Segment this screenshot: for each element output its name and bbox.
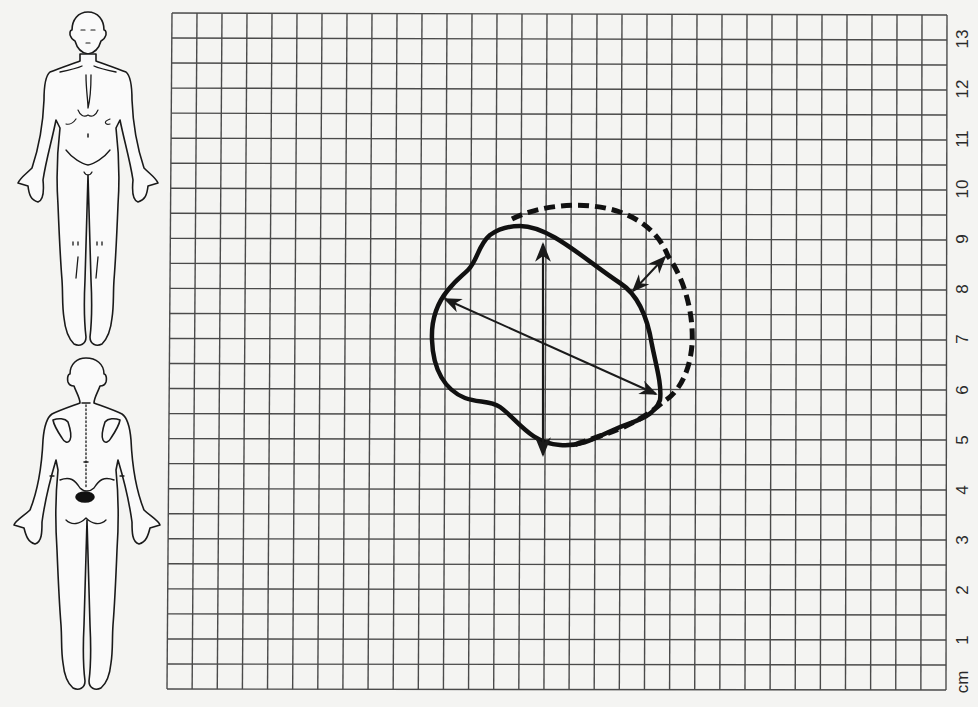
grid-line-horizontal	[168, 589, 946, 590]
grid-line-horizontal	[168, 514, 946, 515]
grid-line-vertical	[217, 13, 222, 689]
grid-line-vertical	[544, 14, 547, 690]
scale-label-3: 3	[953, 525, 973, 555]
scale-label-7: 7	[953, 324, 973, 354]
measurement-grid	[167, 13, 947, 690]
grid-line-vertical	[896, 15, 897, 690]
grid-line-horizontal	[172, 13, 947, 15]
grid-line-horizontal	[170, 288, 947, 290]
grid-line-horizontal	[170, 263, 946, 265]
grid-line-vertical	[795, 15, 797, 690]
body-diagram-posterior	[14, 358, 160, 689]
grid-line-horizontal	[171, 188, 947, 190]
margin-change-arrow	[633, 257, 665, 291]
grid-line-vertical	[871, 15, 872, 690]
grid-line-horizontal	[169, 364, 946, 365]
grid-line-horizontal	[167, 664, 946, 665]
grid-line-horizontal	[168, 614, 947, 615]
grid-line-vertical	[343, 13, 347, 689]
grid-line-vertical	[820, 15, 822, 690]
width-arrow	[445, 299, 656, 394]
grid-line-vertical	[318, 13, 322, 689]
grid-line-vertical	[845, 15, 847, 690]
scale-label-8: 8	[953, 274, 973, 304]
grid-line-vertical	[644, 14, 647, 689]
grid-line-horizontal	[172, 63, 947, 65]
scale-label-5: 5	[953, 425, 973, 455]
grid-line-vertical	[443, 14, 447, 690]
grid-line-horizontal	[171, 113, 947, 115]
scale-label-4: 4	[953, 475, 973, 505]
grid-line-horizontal	[170, 313, 947, 315]
grid-line-vertical	[167, 13, 172, 689]
grid-line-vertical	[469, 14, 472, 690]
scale-label-13: 13	[953, 24, 973, 54]
figure-canvas	[0, 0, 978, 707]
scale-label-10: 10	[953, 174, 973, 204]
unit-label: cm	[953, 667, 973, 697]
grid-line-vertical	[695, 14, 697, 689]
grid-line-vertical	[418, 14, 422, 690]
grid-line-vertical	[670, 14, 672, 689]
grid-line-vertical	[569, 14, 572, 689]
grid-line-horizontal	[169, 464, 947, 465]
grid-line-vertical	[619, 14, 622, 689]
grid-line-vertical	[921, 15, 922, 690]
grid-line-horizontal	[167, 689, 946, 690]
grid-line-horizontal	[168, 489, 946, 490]
scale-label-6: 6	[953, 375, 973, 405]
grid-line-vertical	[293, 13, 297, 689]
grid-line-vertical	[268, 13, 272, 689]
grid-line-horizontal	[169, 439, 947, 440]
grid-line-vertical	[368, 14, 372, 690]
grid-line-horizontal	[169, 414, 946, 415]
grid-line-horizontal	[168, 539, 946, 540]
grid-line-vertical	[946, 15, 947, 690]
grid-line-horizontal	[171, 213, 947, 215]
grid-line-vertical	[594, 14, 597, 689]
scale-label-11: 11	[953, 124, 973, 154]
grid-line-horizontal	[170, 338, 947, 340]
grid-line-vertical	[242, 13, 247, 689]
grid-line-vertical	[519, 14, 522, 690]
wound-measurement-figure: 12345678910111213 cm	[0, 0, 978, 707]
grid-line-vertical	[494, 14, 497, 690]
grid-line-horizontal	[168, 564, 946, 565]
grid-line-vertical	[770, 15, 772, 690]
marked-wound-location	[76, 492, 94, 502]
scale-label-1: 1	[953, 625, 973, 655]
grid-line-vertical	[720, 14, 722, 689]
grid-line-vertical	[745, 14, 747, 689]
body-diagram-anterior	[18, 12, 158, 345]
scale-label-12: 12	[953, 74, 973, 104]
grid-line-horizontal	[171, 138, 947, 140]
grid-line-vertical	[192, 13, 197, 689]
scale-label-2: 2	[953, 575, 973, 605]
grid-line-horizontal	[171, 163, 947, 165]
grid-line-vertical	[393, 14, 397, 690]
previous-wound-outline	[512, 205, 692, 446]
scale-label-9: 9	[953, 224, 973, 254]
grid-line-horizontal	[171, 88, 946, 90]
grid-line-horizontal	[169, 389, 946, 390]
grid-line-horizontal	[167, 639, 946, 640]
grid-line-horizontal	[172, 38, 947, 40]
